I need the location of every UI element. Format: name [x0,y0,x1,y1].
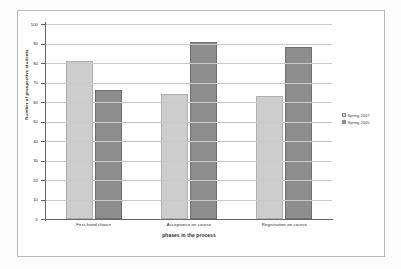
x-axis-title: phases in the process [46,233,332,238]
y-tick-mark [41,161,45,162]
y-tick-label: 10 [0,197,38,202]
y-tick-mark [41,24,45,25]
y-tick-label: 80 [0,61,38,66]
legend-item: Spring 2007 [342,112,370,118]
y-tick-mark [41,141,45,142]
legend: Spring 2007Spring 2005 [341,111,371,127]
plot-area [46,24,332,219]
x-category-label: Acceptance on course [141,222,236,227]
x-axis-line [45,219,333,220]
gridline [46,161,332,162]
y-tick-mark [41,122,45,123]
y-tick-label: 0 [0,217,38,222]
y-tick-mark [41,200,45,201]
legend-label: Spring 2005 [348,120,370,125]
gridline [46,200,332,201]
bar-series2 [285,47,312,219]
y-tick-label: 20 [0,178,38,183]
y-tick-label: 100 [0,22,38,27]
y-tick-label: 90 [0,41,38,46]
gridline [46,83,332,84]
gridline [46,102,332,103]
y-tick-mark [41,63,45,64]
gridline [46,63,332,64]
y-tick-label: 30 [0,158,38,163]
gridline [46,141,332,142]
y-tick-label: 40 [0,139,38,144]
gridline [46,180,332,181]
legend-swatch-icon [342,113,346,117]
y-tick-mark [41,83,45,84]
gridline [46,24,332,25]
y-tick-label: 70 [0,80,38,85]
legend-swatch-icon [342,120,346,124]
gridline [46,122,332,123]
bar-series2 [190,42,217,219]
bar-series1 [256,96,283,219]
chart-figure: Number of prospective students 010203040… [0,0,401,269]
y-tick-mark [41,44,45,45]
y-tick-label: 60 [0,100,38,105]
legend-item: Spring 2005 [342,119,370,125]
y-tick-mark [41,219,45,220]
gridline [46,44,332,45]
x-category-label: Registration on course [237,222,332,227]
legend-label: Spring 2007 [348,113,370,118]
y-tick-mark [41,102,45,103]
x-category-label: First-hand choice [46,222,141,227]
y-tick-mark [41,180,45,181]
y-tick-label: 50 [0,119,38,124]
